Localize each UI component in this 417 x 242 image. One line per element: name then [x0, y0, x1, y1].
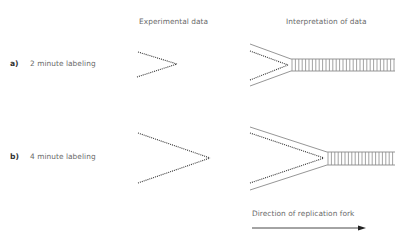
interpretation-fork-a	[250, 44, 395, 86]
replication-diagram	[0, 0, 417, 242]
interpretation-fork-b	[250, 127, 395, 190]
experimental-fork-a	[137, 52, 177, 77]
experimental-fork-b	[138, 133, 210, 183]
direction-arrow-icon	[252, 226, 366, 231]
